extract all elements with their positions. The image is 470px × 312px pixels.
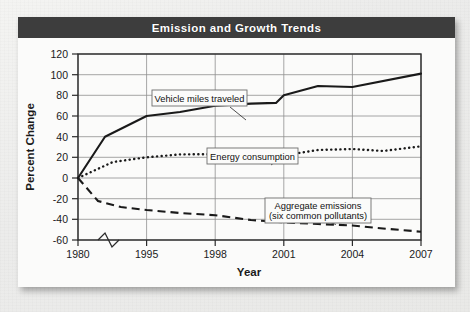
chart-title-bar: Emission and Growth Trends [18,17,455,38]
x-tick-label: 1998 [204,248,228,260]
annotation-label: Vehicle miles traveled [155,94,245,104]
line-chart: 120 100 80 60 40 20 0 -20 -40 -60 Percen… [18,38,455,287]
annotation-label-line1: Aggregate emissions [275,201,362,211]
x-tick-label: 2004 [341,248,365,260]
y-tick-label: 0 [62,172,68,184]
annotation-label-line2: (six common pollutants) [269,211,367,221]
y-axis-ticks [72,54,78,240]
y-tick-label: -60 [53,234,68,246]
x-tick-label: 1980 [66,248,90,260]
y-axis-title: Percent Change [24,103,36,191]
y-tick-label: -40 [53,213,68,225]
y-tick-label: 40 [56,131,68,143]
annotation-energy-consumption: Energy consumption [207,148,298,165]
y-tick-label: -20 [53,193,68,205]
page-title: Emission and Growth Trends [152,22,322,34]
chart-card: 120 100 80 60 40 20 0 -20 -40 -60 Percen… [18,38,455,287]
x-tick-label: 2007 [409,248,433,260]
annotation-label: Energy consumption [210,152,295,162]
x-axis-title: Year [237,266,262,278]
y-tick-label: 60 [56,110,68,122]
y-tick-label: 100 [50,69,68,81]
y-tick-label: 20 [56,151,68,163]
x-axis-tick-labels: 1980 1995 1998 2001 2004 2007 [66,248,433,260]
x-axis-ticks [78,240,421,246]
y-tick-label: 80 [56,89,68,101]
y-axis-tick-labels: 120 100 80 60 40 20 0 -20 -40 -60 [50,48,68,246]
annotation-aggregate-emissions: Aggregate emissions (six common pollutan… [265,198,371,225]
x-tick-label: 1995 [135,248,159,260]
y-tick-label: 120 [50,48,68,60]
chart-figure: Emission and Growth Trends [18,17,455,287]
x-tick-label: 2001 [272,248,296,260]
